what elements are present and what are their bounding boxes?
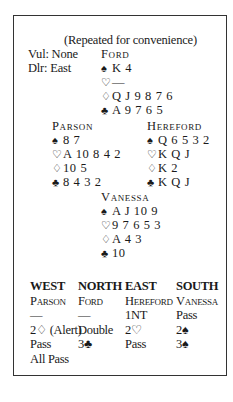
club-icon: ♣	[52, 175, 63, 189]
west-spades: 8 7	[63, 133, 80, 147]
auction-player-west: Parson	[30, 294, 85, 309]
spade-icon: ♠	[101, 204, 112, 218]
spade-icon: ♠	[52, 133, 63, 147]
hand-north: Ford ♠K 4 ♡— ♢Q J 9 8 7 6 ♣A 9 7 6 5	[101, 47, 173, 117]
auction-header-west: WEST	[30, 279, 85, 294]
auction-call: 3♠	[176, 337, 231, 352]
south-diamonds: A 4 3	[112, 232, 142, 246]
east-clubs: K Q J	[158, 175, 190, 189]
club-icon: ♣	[101, 246, 112, 260]
heart-icon: ♡	[101, 218, 112, 232]
hand-east: Hereford ♠Q 6 5 3 2 ♡K Q J ♢K 2 ♣K Q J	[147, 119, 210, 189]
east-hearts: K Q J	[158, 147, 190, 161]
west-clubs: 8 4 3 2	[63, 175, 102, 189]
north-diamonds: Q J 9 8 7 6	[112, 89, 173, 103]
spade-icon: ♠	[147, 133, 158, 147]
south-clubs: 10	[112, 246, 126, 260]
auction-call: All Pass	[30, 352, 85, 367]
auction-column-east: EAST Hereford 1NT 2♡ Pass	[125, 279, 180, 366]
club-icon: ♣	[101, 103, 112, 117]
auction-call: Pass	[125, 337, 180, 352]
auction-header-south: SOUTH	[176, 279, 231, 294]
auction-call: Pass	[176, 308, 231, 323]
auction-player-south: Vanessa	[176, 294, 231, 309]
spade-icon: ♠	[101, 61, 112, 75]
auction-call	[176, 352, 231, 367]
diamond-icon: ♢	[101, 89, 112, 103]
auction-call: 1NT	[125, 308, 180, 323]
dealer: Dlr: East	[28, 61, 71, 75]
west-diamonds: 10 5	[63, 161, 87, 175]
auction-call: Pass	[30, 337, 85, 352]
player-name-north: Ford	[101, 47, 173, 61]
heart-icon: ♡	[52, 147, 63, 161]
east-spades: Q 6 5 3 2	[158, 133, 210, 147]
north-spades: K 4	[112, 61, 132, 75]
auction-column-west: WEST Parson — 2♢ (Alert) Pass All Pass	[30, 279, 85, 366]
west-hearts: A 10 8 4 2	[63, 147, 121, 161]
south-hearts: 9 7 6 5 3	[112, 218, 161, 232]
diamond-icon: ♢	[147, 161, 158, 175]
player-name-east: Hereford	[147, 119, 210, 133]
auction-call: 2♠	[176, 323, 231, 338]
south-spades: A J 10 9	[112, 204, 158, 218]
club-icon: ♣	[147, 175, 158, 189]
player-name-west: Parson	[52, 119, 121, 133]
auction-call: 2♢ (Alert)	[30, 323, 85, 338]
north-hearts: —	[112, 75, 125, 89]
caption: (Repeated for convenience)	[64, 33, 197, 47]
hand-west: Parson ♠8 7 ♡A 10 8 4 2 ♢10 5 ♣8 4 3 2	[52, 119, 121, 189]
auction-player-east: Hereford	[125, 294, 180, 309]
diamond-icon: ♢	[101, 232, 112, 246]
auction-call	[125, 352, 180, 367]
auction-header-east: EAST	[125, 279, 180, 294]
auction-call: 2♡	[125, 323, 180, 338]
heart-icon: ♡	[101, 75, 112, 89]
auction-column-south: SOUTH Vanessa Pass 2♠ 3♠	[176, 279, 231, 366]
player-name-south: Vanessa	[101, 190, 161, 204]
east-diamonds: K 2	[158, 161, 178, 175]
hand-south: Vanessa ♠A J 10 9 ♡9 7 6 5 3 ♢A 4 3 ♣10	[101, 190, 161, 260]
diamond-icon: ♢	[52, 161, 63, 175]
north-clubs: A 9 7 6 5	[112, 103, 163, 117]
auction-call: —	[30, 308, 85, 323]
vulnerability: Vul: None	[28, 47, 78, 61]
heart-icon: ♡	[147, 147, 158, 161]
